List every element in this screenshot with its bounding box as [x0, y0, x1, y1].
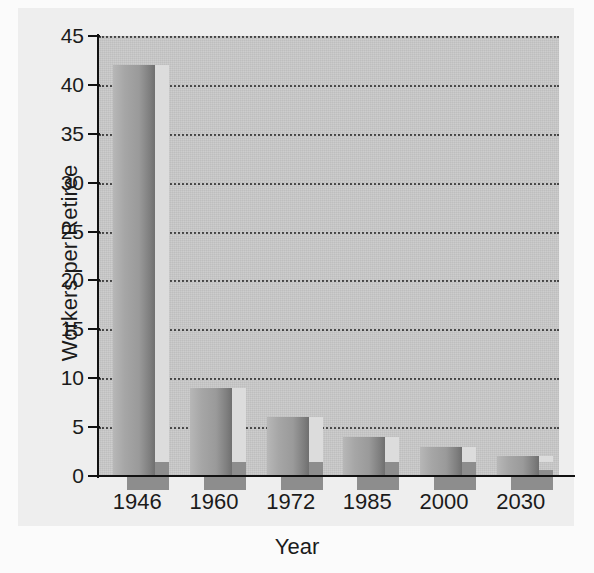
bar-1972 [267, 417, 323, 490]
y-axis-tick-40 [88, 84, 100, 86]
x-axis-tick-label-1946: 1946 [99, 489, 176, 515]
y-axis-tick-45 [88, 35, 100, 37]
y-axis-tick-label-45: 45 [42, 25, 84, 46]
y-axis-line [97, 34, 99, 478]
y-axis-tick-10 [88, 377, 100, 379]
x-axis-tick-label-2030: 2030 [482, 489, 559, 515]
y-axis-tick-label-0: 0 [42, 465, 84, 486]
y-axis-tick-25 [88, 231, 100, 233]
bar-highlight-2000 [462, 447, 476, 462]
x-axis-tick-label-1960: 1960 [176, 489, 253, 515]
x-axis-tick-label-2000: 2000 [406, 489, 483, 515]
bar-face-1960 [190, 388, 232, 476]
y-axis-tick-35 [88, 133, 100, 135]
y-axis-title-wrap: Workers per Retiree [36, 0, 37, 1]
bar-1946 [113, 65, 169, 490]
bar-face-1985 [343, 437, 385, 476]
bar-1985 [343, 437, 399, 490]
bar-chart-figure: 454035302520151050 194619601972198520002… [0, 0, 594, 573]
bar-2000 [420, 447, 476, 490]
bar-2030 [497, 456, 553, 490]
x-axis-tick-label-1972: 1972 [252, 489, 329, 515]
bar-face-2030 [497, 456, 539, 476]
bar-face-1946 [113, 65, 155, 476]
y-axis-tick-20 [88, 279, 100, 281]
gridline-45 [99, 36, 559, 38]
y-axis-tick-30 [88, 182, 100, 184]
plot-area [99, 36, 559, 476]
x-axis-tick-label-1985: 1985 [329, 489, 406, 515]
bar-highlight-2030 [539, 456, 553, 462]
bar-face-1972 [267, 417, 309, 476]
y-axis-tick-15 [88, 328, 100, 330]
y-axis-title: Workers per Retiree [57, 61, 83, 465]
bar-highlight-1985 [385, 437, 399, 462]
x-axis-title: Year [0, 534, 594, 560]
bar-highlight-1960 [232, 388, 246, 462]
bar-highlight-1946 [155, 65, 169, 462]
y-axis-tick-5 [88, 426, 100, 428]
bar-highlight-1972 [309, 417, 323, 462]
x-axis-line [97, 475, 575, 477]
bar-face-2000 [420, 447, 462, 476]
